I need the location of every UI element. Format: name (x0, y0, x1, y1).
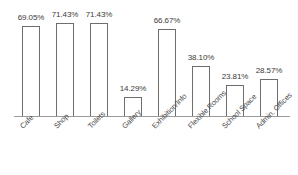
x-tick-label-shop: Shop (52, 112, 70, 130)
x-axis-line (14, 116, 290, 117)
value-label-toilets: 71.43% (77, 10, 121, 19)
bar-toilets (90, 23, 108, 116)
value-label-admin-offices: 28.57% (247, 66, 291, 75)
bar-shop (56, 23, 74, 116)
bar-cafe (22, 26, 40, 116)
bar-chart: 69.05% 71.43% 71.43% 14.29% 66.67% 38.10… (0, 0, 298, 175)
value-label-flexible-rooms: 38.10% (179, 53, 223, 62)
value-label-gallery: 14.29% (111, 84, 155, 93)
plot-area: 69.05% 71.43% 71.43% 14.29% 66.67% 38.10… (0, 0, 298, 175)
value-label-exhibition-info: 66.67% (145, 16, 189, 25)
